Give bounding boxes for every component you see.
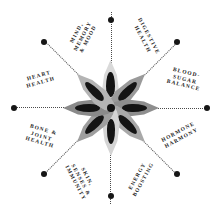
dot-hormone-harmony[interactable] xyxy=(174,171,180,177)
label-bone-joint-health[interactable]: Bone &JointHealth xyxy=(25,122,59,149)
dot-blood-sugar-balance[interactable] xyxy=(204,105,210,111)
dot-skin-senses-immunity[interactable] xyxy=(41,171,47,177)
dot-mind-memory-mood[interactable] xyxy=(108,17,114,23)
label-blood-sugar-balance[interactable]: Blood-SugarBalance xyxy=(166,65,204,93)
benefit-wheel-diagram: DigestiveHealthBlood-SugarBalanceHormone… xyxy=(0,0,221,216)
label-mind-memory-mood[interactable]: Mind,Memory& Mood xyxy=(66,17,99,55)
label-hormone-harmony[interactable]: HormoneHarmony xyxy=(161,120,200,149)
dot-heart-health[interactable] xyxy=(41,39,47,45)
label-energy-boosting[interactable]: EnergyBoosting xyxy=(125,158,155,198)
label-heart-health[interactable]: HeartHealth xyxy=(24,69,56,90)
dot-bone-joint-health[interactable] xyxy=(11,105,17,111)
label-digestive-health[interactable]: DigestiveHealth xyxy=(131,17,162,59)
flower-core xyxy=(107,104,115,112)
dot-energy-boosting[interactable] xyxy=(108,193,114,199)
label-skin-senses-immunity[interactable]: Skin,Senses &Immunity xyxy=(63,158,99,202)
dot-digestive-health[interactable] xyxy=(174,39,180,45)
